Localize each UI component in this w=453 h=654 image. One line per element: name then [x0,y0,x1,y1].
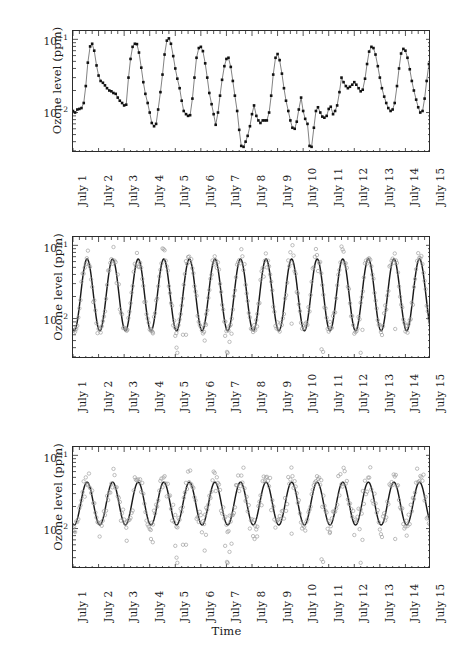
x-tick-labels-panel3: July 1July 2July 3July 4July 5July 6July… [0,574,453,630]
panel-observed: Ozone level (ppm) 10−1 10−2 July 1July 2… [0,0,453,215]
x-tick-label: July 5 [178,591,190,622]
x-tick-label: July 5 [178,381,190,412]
x-tick-label: July 7 [229,381,241,412]
x-tick-label: July 12 [357,168,369,206]
x-tick-label: July 7 [229,175,241,206]
x-tick-label: July 11 [332,374,344,412]
x-tick-label: July 13 [383,168,395,206]
x-tick-label: July 14 [408,584,420,622]
panel-fit-large: Ozone level (ppm) 10−1 10−2 July 1July 2… [0,210,453,422]
x-tick-label: July 10 [306,374,318,412]
x-tick-label: July 8 [255,381,267,412]
y-tick-1e-1-panel3: 10−1 [26,450,68,464]
x-tick-label: July 3 [127,381,139,412]
x-tick-label: July 10 [306,168,318,206]
x-tick-label: July 5 [178,175,190,206]
y-tick-1e-2-panel1: 10−2 [26,105,68,119]
x-tick-label: July 11 [332,584,344,622]
x-axis-title: Time [0,624,453,638]
plot-canvas [73,447,430,568]
x-tick-label: July 12 [357,374,369,412]
x-tick-labels-panel2: July 1July 2July 3July 4July 5July 6July… [0,364,453,420]
x-tick-label: July 3 [127,591,139,622]
x-tick-label: July 6 [204,381,216,412]
x-tick-label: July 9 [281,381,293,412]
x-tick-label: July 14 [408,374,420,412]
x-tick-label: July 13 [383,374,395,412]
y-tick-1e-2-panel3: 10−2 [26,522,68,536]
x-tick-label: July 3 [127,175,139,206]
y-tick-1e-1-panel2: 10−1 [26,240,68,254]
x-tick-label: July 13 [383,584,395,622]
x-tick-label: July 4 [153,591,165,622]
x-tick-label: July 8 [255,591,267,622]
panel-fit-small: Ozone level (ppm) 10−1 10−2 July 1July 2… [0,420,453,620]
x-tick-labels-panel1: July 1July 2July 3July 4July 5July 6July… [0,158,453,214]
plot-canvas [73,237,430,358]
x-tick-label: July 6 [204,175,216,206]
x-tick-label: July 9 [281,175,293,206]
y-axis-title-panel3: Ozone level (ppm) [4,436,22,558]
x-tick-label: July 2 [102,175,114,206]
x-tick-label: July 11 [332,168,344,206]
x-tick-label: July 1 [76,591,88,622]
x-tick-label: July 4 [153,175,165,206]
x-tick-label: July 7 [229,591,241,622]
y-axis-title-panel2: Ozone level (ppm) [4,226,22,348]
x-tick-label: July 15 [434,584,446,622]
x-tick-label: July 12 [357,584,369,622]
x-tick-label: July 4 [153,381,165,412]
x-tick-label: July 9 [281,591,293,622]
x-tick-label: July 2 [102,591,114,622]
plot-area-fit-small [72,446,430,568]
y-axis-title-panel1: Ozone level (ppm) [4,18,22,143]
x-tick-label: July 1 [76,175,88,206]
x-tick-label: July 10 [306,584,318,622]
x-tick-label: July 14 [408,168,420,206]
ozone-figure: Ozone level (ppm) 10−1 10−2 July 1July 2… [0,0,453,654]
x-tick-label: July 8 [255,175,267,206]
plot-area-observed [72,30,430,152]
y-tick-1e-2-panel2: 10−2 [26,312,68,326]
plot-area-fit-large [72,236,430,358]
x-tick-label: July 2 [102,381,114,412]
x-tick-label: July 15 [434,168,446,206]
x-tick-label: July 6 [204,591,216,622]
x-tick-label: July 15 [434,374,446,412]
plot-canvas [73,31,430,152]
y-tick-1e-1-panel1: 10−1 [26,33,68,47]
x-tick-label: July 1 [76,381,88,412]
